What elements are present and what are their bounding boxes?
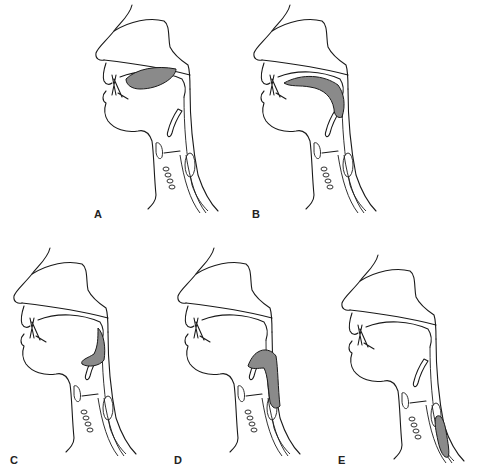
panel-label-a: A xyxy=(94,208,102,220)
panel-label-d: D xyxy=(174,454,182,466)
sagittal-head-diagram-d xyxy=(172,248,312,458)
bolus-oral-cavity xyxy=(126,67,176,89)
panel-label-c: C xyxy=(10,454,18,466)
sagittal-head-diagram-a xyxy=(90,5,230,215)
panel-d: D xyxy=(172,248,312,463)
sagittal-head-diagram-b xyxy=(248,5,388,215)
panel-b: B xyxy=(248,5,388,215)
bolus-esophagus xyxy=(435,416,449,458)
bolus-pharynx xyxy=(82,328,105,366)
sagittal-head-diagram-c xyxy=(8,248,148,458)
panel-e: E xyxy=(336,255,476,465)
panel-a: A xyxy=(90,5,230,215)
panel-label-b: B xyxy=(252,208,260,220)
sagittal-head-diagram-e xyxy=(336,255,476,465)
panel-c: C xyxy=(8,248,148,463)
panel-label-e: E xyxy=(338,454,345,466)
bolus-oropharynx xyxy=(284,76,344,117)
